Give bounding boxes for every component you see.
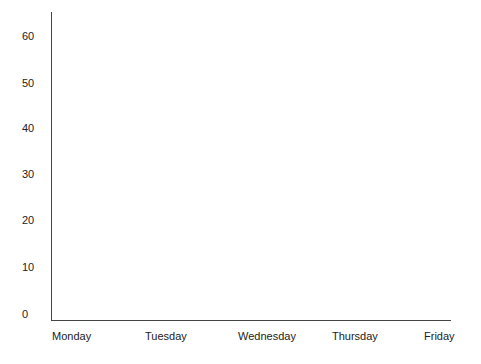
y-tick-0: 0 [22, 308, 46, 320]
y-tick-20: 20 [22, 214, 46, 226]
y-axis-line [51, 12, 52, 321]
x-tick-thursday: Thursday [332, 330, 378, 342]
y-tick-50: 50 [22, 77, 46, 89]
x-axis-line [51, 320, 451, 321]
y-tick-40: 40 [22, 122, 46, 134]
x-tick-friday: Friday [424, 330, 455, 342]
y-tick-60: 60 [22, 30, 46, 42]
x-tick-monday: Monday [52, 330, 91, 342]
y-tick-10: 10 [22, 261, 46, 273]
x-tick-wednesday: Wednesday [238, 330, 296, 342]
x-tick-tuesday: Tuesday [145, 330, 187, 342]
y-tick-30: 30 [22, 168, 46, 180]
